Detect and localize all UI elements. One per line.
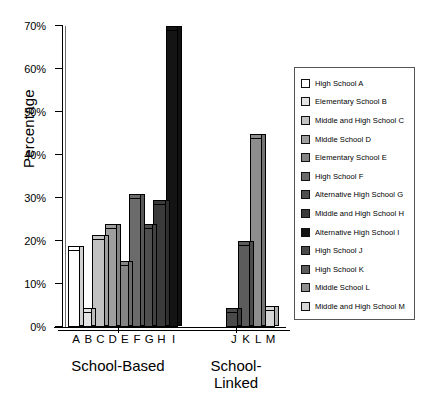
x-tick-label-D: D — [109, 333, 117, 345]
bar-side-face — [116, 224, 121, 326]
y-tick-label: 40% — [24, 149, 46, 161]
bar-top-face — [129, 194, 141, 199]
legend-label-H: Middle and High School H — [315, 209, 404, 218]
x-tick-label-K: K — [242, 333, 250, 345]
bar-side-face — [177, 26, 182, 326]
legend-label-L: Middle School L — [315, 283, 370, 292]
bar-chart: Percentage 0%10%20%30%40%50%60%70% ABCDE… — [0, 0, 429, 406]
legend-swatch-F — [301, 172, 310, 181]
x-tick-label-M: M — [266, 333, 276, 345]
y-tick-label: 60% — [24, 63, 46, 75]
y-axis-label: Percentage — [20, 59, 37, 199]
bar-top-face — [238, 241, 250, 246]
bar-A — [68, 250, 80, 327]
group-label-school-based: School-Based — [33, 358, 203, 375]
bar-top-face — [92, 235, 104, 240]
bar-side-face — [79, 246, 84, 326]
x-tick-label-G: G — [145, 333, 154, 345]
legend-swatch-D — [301, 135, 310, 144]
legend-label-G: Alternative High School G — [315, 190, 403, 199]
y-tick-label: 50% — [24, 106, 46, 118]
legend-swatch-I — [301, 228, 310, 237]
legend-swatch-K — [301, 265, 310, 274]
legend-item-G[interactable]: Alternative High School G — [301, 186, 414, 205]
legend-item-M[interactable]: Middle and High School M — [301, 297, 414, 316]
legend-item-J[interactable]: High School J — [301, 241, 414, 260]
y-tick-label: 70% — [24, 20, 46, 32]
x-tick-label-H: H — [157, 333, 165, 345]
legend-swatch-L — [301, 283, 310, 292]
legend-label-E: Elementary School E — [315, 153, 387, 162]
legend-swatch-E — [301, 153, 310, 162]
x-tick-label-F: F — [134, 333, 141, 345]
bar-top-face — [166, 26, 178, 31]
y-tick-label: 20% — [24, 235, 46, 247]
legend-label-F: High School F — [315, 172, 363, 181]
legend-item-C[interactable]: Middle and High School C — [301, 111, 414, 130]
bar-side-face — [261, 134, 266, 326]
y-tick-label: 10% — [24, 278, 46, 290]
legend-label-A: High School A — [315, 79, 363, 88]
legend: High School AElementary School BMiddle a… — [294, 67, 415, 320]
x-tick-label-J: J — [231, 333, 237, 345]
bar-top-face — [68, 246, 80, 251]
bar-side-face — [165, 200, 170, 326]
bar-top-face — [250, 134, 262, 139]
legend-item-L[interactable]: Middle School L — [301, 279, 414, 298]
legend-label-C: Middle and High School C — [315, 116, 404, 125]
x-axis-line — [54, 327, 286, 328]
y-tick-label: 30% — [24, 192, 46, 204]
legend-item-D[interactable]: Middle School D — [301, 130, 414, 149]
bar-side-face — [128, 261, 133, 326]
legend-swatch-A — [301, 79, 310, 88]
legend-label-K: High School K — [315, 265, 364, 274]
x-axis-line-shadow — [58, 330, 290, 331]
y-tick-label: 0% — [30, 321, 46, 333]
bar-side-face — [104, 235, 109, 326]
legend-label-I: Alternative High School I — [315, 228, 399, 237]
x-tick-label-B: B — [84, 333, 92, 345]
bar-side-face — [140, 194, 145, 326]
legend-item-F[interactable]: High School F — [301, 167, 414, 186]
legend-label-J: High School J — [315, 246, 363, 255]
x-tick-label-I: I — [172, 333, 175, 345]
legend-swatch-G — [301, 190, 310, 199]
group-label-school-linked-line2: Linked — [191, 375, 281, 392]
group-label-school-linked: School- Linked — [191, 358, 281, 392]
group-label-school-linked-line1: School- — [191, 358, 281, 375]
legend-swatch-M — [301, 302, 310, 311]
legend-item-A[interactable]: High School A — [301, 74, 414, 93]
legend-item-H[interactable]: Middle and High School H — [301, 204, 414, 223]
bar-top-face — [226, 308, 238, 313]
legend-item-I[interactable]: Alternative High School I — [301, 223, 414, 242]
legend-item-K[interactable]: High School K — [301, 260, 414, 279]
x-tick-label-A: A — [72, 333, 80, 345]
legend-swatch-C — [301, 116, 310, 125]
legend-swatch-B — [301, 97, 310, 106]
bar-top-face — [105, 224, 117, 229]
x-axis-tick-labels: ABCDEFGHIJKLM — [62, 333, 284, 349]
x-tick-label-L: L — [255, 333, 261, 345]
bar-side-face — [249, 241, 254, 326]
legend-label-D: Middle School D — [315, 135, 371, 144]
x-tick-label-E: E — [121, 333, 129, 345]
group-tick-0 — [118, 326, 119, 333]
legend-label-B: Elementary School B — [315, 97, 387, 106]
bar-side-face — [152, 224, 157, 326]
legend-item-B[interactable]: Elementary School B — [301, 93, 414, 112]
group-tick-1 — [236, 326, 237, 333]
x-tick-label-C: C — [96, 333, 104, 345]
bar-series — [62, 26, 284, 327]
legend-swatch-J — [301, 246, 310, 255]
legend-label-M: Middle and High School M — [315, 302, 405, 311]
bar-top-face — [153, 200, 165, 205]
plot-area: 0%10%20%30%40%50%60%70% — [62, 26, 284, 327]
legend-item-E[interactable]: Elementary School E — [301, 148, 414, 167]
bar-J — [226, 312, 238, 327]
legend-swatch-H — [301, 209, 310, 218]
